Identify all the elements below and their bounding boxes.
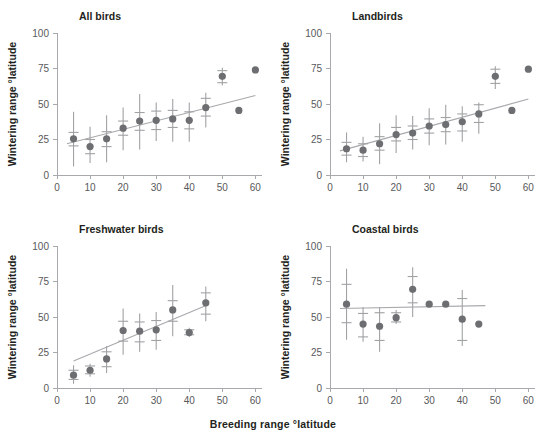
chart-panel-landbirds: Landbirds02550751000102030405060Winterin… [273, 0, 546, 215]
y-axis-title: Wintering range °latitude [6, 42, 18, 166]
data-point-marker [508, 107, 515, 114]
data-point-marker [202, 104, 209, 111]
data-point-marker [186, 117, 193, 124]
y-tick-label: 25 [311, 347, 323, 358]
data-point-marker [459, 118, 466, 125]
panel-title: All birds [79, 10, 121, 22]
x-tick-label: 10 [358, 395, 370, 406]
x-tick-label: 0 [54, 182, 60, 193]
data-point-marker [409, 130, 416, 137]
y-tick-label: 50 [38, 99, 50, 110]
data-point-marker [219, 73, 226, 80]
data-point-marker [169, 306, 176, 313]
y-tick-label: 25 [38, 134, 50, 145]
y-tick-label: 50 [311, 312, 323, 323]
figure-panel-grid: All birds02550751000102030405060Winterin… [0, 0, 546, 447]
data-point-marker [475, 321, 482, 328]
data-point-marker [343, 145, 350, 152]
data-point-marker [70, 372, 77, 379]
data-point-marker [103, 135, 110, 142]
x-tick-label: 50 [490, 182, 502, 193]
x-tick-label: 10 [85, 395, 97, 406]
data-point-marker [343, 301, 350, 308]
x-tick-label: 30 [424, 395, 436, 406]
y-tick-label: 0 [43, 383, 49, 394]
x-tick-label: 60 [250, 182, 262, 193]
chart-panel-freshwater-birds: Freshwater birds02550751000102030405060W… [0, 213, 273, 428]
x-tick-label: 20 [391, 395, 403, 406]
y-axis-title: Wintering range °latitude [279, 255, 291, 379]
chart-panel-coastal-birds: Coastal birds02550751000102030405060Wint… [273, 213, 546, 428]
x-tick-label: 60 [250, 395, 262, 406]
y-tick-label: 100 [32, 28, 49, 39]
data-point-marker [86, 143, 93, 150]
data-point-marker [442, 301, 449, 308]
data-point-marker [376, 323, 383, 330]
x-tick-label: 30 [151, 182, 163, 193]
data-point-marker [426, 301, 433, 308]
y-tick-label: 75 [38, 63, 50, 74]
panel-title: Landbirds [352, 10, 403, 22]
y-tick-label: 50 [311, 99, 323, 110]
x-tick-label: 20 [118, 395, 130, 406]
data-point-marker [103, 355, 110, 362]
data-point-marker [186, 329, 193, 336]
data-point-marker [136, 117, 143, 124]
y-tick-label: 100 [32, 241, 49, 252]
data-point-marker [475, 110, 482, 117]
x-tick-label: 10 [358, 182, 370, 193]
x-tick-label: 40 [184, 395, 196, 406]
y-tick-label: 50 [38, 312, 50, 323]
data-point-marker [136, 328, 143, 335]
data-point-marker [252, 66, 259, 73]
data-point-marker [442, 121, 449, 128]
x-tick-label: 0 [327, 395, 333, 406]
data-point-marker [492, 73, 499, 80]
data-point-marker [120, 327, 127, 334]
y-tick-label: 75 [38, 276, 50, 287]
x-tick-label: 0 [327, 182, 333, 193]
data-point-marker [393, 314, 400, 321]
panel-title: Freshwater birds [79, 223, 164, 235]
x-tick-label: 50 [217, 395, 229, 406]
data-point-marker [525, 66, 532, 73]
y-tick-label: 25 [311, 134, 323, 145]
x-tick-label: 10 [85, 182, 97, 193]
x-tick-label: 20 [391, 182, 403, 193]
data-point-marker [393, 131, 400, 138]
data-point-marker [169, 115, 176, 122]
y-tick-label: 0 [43, 170, 49, 181]
data-point-marker [426, 122, 433, 129]
data-point-marker [202, 299, 209, 306]
panel-title: Coastal birds [352, 223, 419, 235]
data-point-marker [359, 321, 366, 328]
data-point-marker [120, 125, 127, 132]
x-tick-label: 20 [118, 182, 130, 193]
y-tick-label: 75 [311, 63, 323, 74]
data-point-marker [153, 326, 160, 333]
x-axis-caption: Breeding range °latitude [0, 418, 546, 430]
chart-panel-all-birds: All birds02550751000102030405060Winterin… [0, 0, 273, 215]
regression-trendline [67, 95, 255, 143]
data-point-marker [409, 286, 416, 293]
y-tick-label: 100 [305, 241, 322, 252]
y-tick-label: 0 [316, 170, 322, 181]
x-tick-label: 40 [457, 182, 469, 193]
x-tick-label: 60 [523, 182, 535, 193]
x-tick-label: 40 [457, 395, 469, 406]
data-point-marker [70, 135, 77, 142]
x-tick-label: 30 [424, 182, 436, 193]
y-axis-title: Wintering range °latitude [279, 42, 291, 166]
y-tick-label: 75 [311, 276, 323, 287]
x-tick-label: 0 [54, 395, 60, 406]
data-point-marker [86, 367, 93, 374]
x-tick-label: 40 [184, 182, 196, 193]
data-point-marker [235, 107, 242, 114]
data-point-marker [359, 147, 366, 154]
x-tick-label: 60 [523, 395, 535, 406]
regression-trendline [340, 99, 528, 151]
x-tick-label: 50 [490, 395, 502, 406]
x-tick-label: 50 [217, 182, 229, 193]
x-tick-label: 30 [151, 395, 163, 406]
data-point-marker [459, 316, 466, 323]
